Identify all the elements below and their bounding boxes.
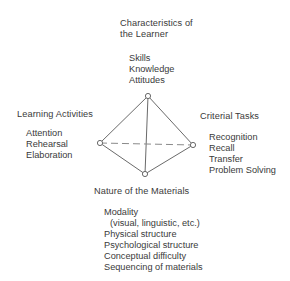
materials-item: Psychological structure <box>104 240 203 251</box>
edge-top-left <box>100 96 148 143</box>
vertex-right <box>190 142 195 147</box>
materials-item-sub: (visual, linguistic, etc.) <box>104 218 203 229</box>
activities-items: Attention Rehearsal Elaboration <box>26 128 72 161</box>
vertex-bottom <box>142 171 147 176</box>
learner-item: Attitudes <box>129 75 174 86</box>
edge-left-bottom <box>100 143 145 174</box>
learner-title-line1: Characteristics of <box>120 18 193 29</box>
activities-title: Learning Activities <box>17 109 93 120</box>
tasks-title: Criterial Tasks <box>200 111 259 122</box>
learner-items: Skills Knowledge Attitudes <box>129 53 174 86</box>
activities-item: Elaboration <box>26 150 72 161</box>
edge-top-right <box>148 96 193 145</box>
edge-right-bottom <box>145 145 193 174</box>
materials-item: Physical structure <box>104 229 203 240</box>
tasks-items: Recognition Recall Transfer Problem Solv… <box>209 132 276 176</box>
edge-top-bottom <box>145 96 148 174</box>
activities-item: Rehearsal <box>26 139 72 150</box>
materials-items: Modality (visual, linguistic, etc.) Phys… <box>104 207 203 273</box>
learner-title-line2: the Learner <box>120 29 193 40</box>
tasks-item: Problem Solving <box>209 165 276 176</box>
vertex-top <box>145 93 150 98</box>
materials-item: Sequencing of materials <box>104 262 203 273</box>
learner-title: Characteristics of the Learner <box>120 18 193 40</box>
tasks-item: Recall <box>209 143 276 154</box>
materials-title: Nature of the Materials <box>94 186 189 197</box>
learner-item: Skills <box>129 53 174 64</box>
materials-item: Conceptual difficulty <box>104 251 203 262</box>
materials-item: Modality <box>104 207 203 218</box>
tasks-item: Recognition <box>209 132 276 143</box>
tasks-item: Transfer <box>209 154 276 165</box>
activities-item: Attention <box>26 128 72 139</box>
learner-item: Knowledge <box>129 64 174 75</box>
vertex-left <box>97 140 102 145</box>
